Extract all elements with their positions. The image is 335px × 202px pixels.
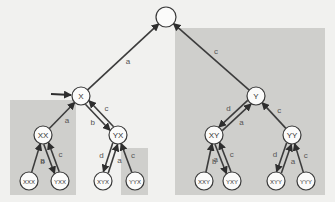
edge-label: a [291, 157, 296, 166]
node-x: X [72, 87, 90, 105]
edge-label: c [214, 47, 218, 56]
node-label: Y [253, 92, 259, 101]
tree-diagram: acbcadacabcdacabcdac XYXXYXXYYYXXXYXXXYX… [0, 0, 335, 202]
node-y: Y [247, 87, 265, 105]
node-yxx: YXX [51, 172, 69, 190]
edge-label: a [239, 118, 244, 127]
edge-label: b [40, 157, 45, 166]
node-label: XXX [23, 179, 35, 185]
edge-label: c [304, 151, 308, 160]
node-label: YY [287, 131, 298, 140]
tree-canvas: acbcadacabcdacabcdac XYXXYXXYYYXXXYXXXYX… [0, 0, 335, 202]
edge-label: d [226, 104, 230, 113]
edge-line [88, 24, 159, 90]
edge-label: a [65, 116, 70, 125]
entry-arrow-icon [51, 94, 71, 95]
edge-label: d [99, 151, 103, 160]
node-circle [156, 7, 176, 27]
node-yyy: YYY [297, 172, 315, 190]
edge-label: c [230, 150, 234, 159]
node-label: X [78, 92, 84, 101]
edge-label: c [58, 150, 62, 159]
edge-x-to-root: a [88, 24, 159, 90]
node-xyy: XYY [267, 172, 285, 190]
edge-label: d [273, 150, 277, 159]
node-label: XYY [270, 179, 282, 185]
edge-label: b [212, 157, 217, 166]
node-xxx: XXX [20, 172, 38, 190]
node-label: YXX [54, 179, 66, 185]
edge-label: a [126, 57, 131, 66]
node-label: YXY [226, 179, 238, 185]
node-xxy: XXY [195, 172, 213, 190]
node-yy: YY [283, 126, 301, 144]
node-label: XY [209, 131, 220, 140]
node-label: XXY [198, 179, 210, 185]
node-yyx: YYX [126, 172, 144, 190]
node-xyx: XYX [94, 172, 112, 190]
edge-line [103, 143, 112, 172]
node-yxy: YXY [223, 172, 241, 190]
node-root [156, 7, 176, 27]
edge-label: b [90, 118, 95, 127]
edge-label: c [131, 151, 135, 160]
node-label: YYY [300, 179, 312, 185]
node-label: YX [113, 131, 124, 140]
edge-label: a [117, 156, 122, 165]
edge-label: c [277, 106, 281, 115]
node-xx: XX [34, 126, 52, 144]
edge-line [108, 144, 117, 173]
node-yx: YX [109, 126, 127, 144]
node-label: YYX [129, 179, 141, 185]
node-xy: XY [205, 126, 223, 144]
edge-label: c [104, 104, 108, 113]
node-label: XYX [97, 179, 109, 185]
node-label: XX [38, 131, 49, 140]
